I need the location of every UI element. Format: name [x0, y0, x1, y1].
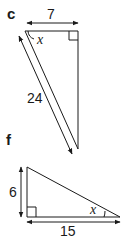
part-label-c: c — [7, 5, 15, 22]
triangle-f: f x 6 15 — [6, 131, 120, 239]
angle-arc-f — [104, 211, 105, 217]
angle-label-x-f: x — [89, 202, 97, 217]
right-angle-marker-f — [27, 207, 36, 217]
part-label-f: f — [6, 131, 12, 148]
triangle-f-outline — [27, 167, 120, 217]
side-label-15: 15 — [60, 223, 76, 239]
side-label-24: 24 — [27, 90, 43, 106]
side-label-6: 6 — [9, 184, 17, 200]
triangle-c: c 7 x 24 — [7, 5, 78, 154]
angle-label-x-c: x — [36, 32, 44, 47]
right-angle-marker-c — [69, 31, 78, 40]
side-label-7: 7 — [47, 6, 55, 22]
diagram-canvas: c 7 x 24 f x 6 15 — [0, 0, 129, 239]
angle-arc-c — [28, 31, 34, 39]
